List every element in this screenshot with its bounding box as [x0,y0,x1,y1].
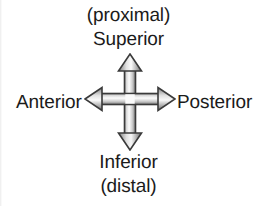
label-proximal: (proximal) [0,4,257,27]
arrow-center-junction [125,94,134,103]
label-anterior: Anterior [16,91,82,114]
label-superior: Superior [0,28,257,51]
four-way-cross-arrow [84,53,176,151]
arrowhead-right-icon [158,88,175,111]
arrowhead-up-icon [119,54,142,71]
label-distal: (distal) [0,175,257,198]
label-posterior: Posterior [177,91,252,114]
arrowhead-down-icon [119,133,142,150]
anatomical-direction-figure: (proximal) Superior Anterior Posterior I… [0,0,257,206]
arrowhead-left-icon [85,88,102,111]
label-inferior: Inferior [0,151,257,174]
